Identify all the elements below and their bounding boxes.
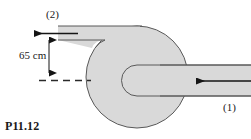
dimension-label-65cm: 65 cm bbox=[19, 50, 46, 61]
dimension-group bbox=[39, 40, 91, 81]
inlet-port-label: (1) bbox=[223, 102, 236, 113]
outlet-port-label: (2) bbox=[46, 9, 59, 20]
figure-number-label: P11.12 bbox=[5, 120, 39, 132]
figure-container: (2) 65 cm (1) P11.12 bbox=[0, 0, 251, 139]
